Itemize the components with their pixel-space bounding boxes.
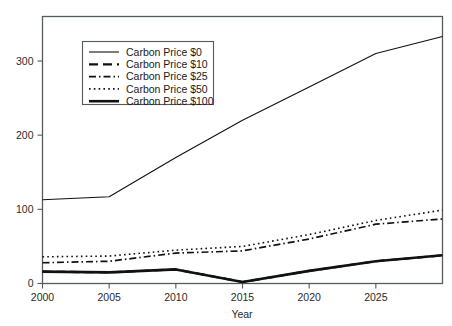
x-tick-label: 2005 xyxy=(97,291,121,303)
series-line-3 xyxy=(43,210,443,257)
x-tick-label: 2015 xyxy=(231,291,255,303)
y-tick-label: 100 xyxy=(16,203,34,215)
legend-label-0: Carbon Price $0 xyxy=(126,46,202,58)
legend-label-2: Carbon Price $25 xyxy=(126,70,208,82)
x-tick-label: 2000 xyxy=(31,291,55,303)
x-tick-label: 2020 xyxy=(297,291,321,303)
x-tick-label: 2025 xyxy=(364,291,388,303)
series-line-2 xyxy=(43,219,443,263)
x-axis-ticks: 200020052010201520202025 xyxy=(31,284,388,303)
line-chart: 0100200300 200020052010201520202025 Year… xyxy=(0,0,452,326)
legend-label-3: Carbon Price $50 xyxy=(126,83,208,95)
legend-label-4: Carbon Price $100 xyxy=(126,95,214,107)
y-tick-label: 200 xyxy=(16,129,34,141)
x-axis-title: Year xyxy=(231,308,253,320)
series-line-4 xyxy=(43,255,443,282)
legend-label-1: Carbon Price $10 xyxy=(126,58,208,70)
chart-figure: 0100200300 200020052010201520202025 Year… xyxy=(0,0,452,326)
x-tick-label: 2010 xyxy=(164,291,188,303)
y-axis-ticks: 0100200300 xyxy=(16,55,43,289)
series-line-1 xyxy=(43,255,443,282)
chart-legend: Carbon Price $0Carbon Price $10Carbon Pr… xyxy=(83,42,214,108)
y-tick-label: 300 xyxy=(16,55,34,67)
y-tick-label: 0 xyxy=(28,277,34,289)
